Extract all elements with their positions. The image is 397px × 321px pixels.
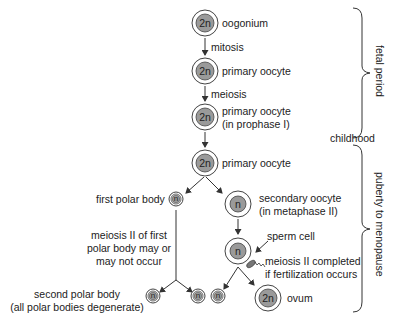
ploidy-label: 2n [195,111,215,123]
ploidy-label: 2n [195,157,215,169]
ovum-label: ovum [287,292,313,304]
completion-note-1: meiosis II completed [265,255,361,267]
meiosis-label: meiosis [211,88,247,100]
ploidy-label: n [147,291,159,301]
polar-meiosis-note-1: meiosis II of first [84,229,174,241]
completion-note-2: if fertilization occurs [265,268,357,280]
puberty-menopause-label: puberty to menopause [374,172,386,277]
sperm-icon [245,259,265,269]
primary-oocyte-prophase-label: primary oocyte [222,105,291,117]
ploidy-label: 2n [195,17,215,29]
polar-meiosis-note-2: polar body may or [84,242,174,254]
ploidy-label: n [170,194,182,204]
mitosis-label: mitosis [211,41,244,53]
fetal-period-brace [353,8,370,138]
primary-oocyte-prophase-sublabel: (in prophase I) [222,118,290,130]
primary-oocyte-label: primary oocyte [222,65,291,77]
oogonium-label: oogonium [222,17,268,29]
sperm-cell-label: sperm cell [267,230,315,242]
childhood-label: childhood [330,132,375,144]
puberty-brace [353,145,370,312]
ploidy-label: n [212,291,224,301]
primary-oocyte-label-2: primary oocyte [222,157,291,169]
polar-meiosis-note-3: may not occur [84,255,174,267]
ploidy-label: n [228,245,248,257]
secondary-oocyte-sublabel: (in metaphase II) [259,205,338,217]
secondary-oocyte-label: secondary oocyte [259,192,341,204]
ploidy-label: 2n [258,292,278,304]
ploidy-label: n [192,291,204,301]
first-polar-body-label: first polar body [96,193,165,205]
fetal-period-label: fetal period [374,45,386,97]
second-polar-body-label: second polar body [10,288,144,300]
polar-degenerate-note: (all polar bodies degenerate) [4,301,150,313]
ploidy-label: n [228,198,248,210]
ploidy-label: 2n [195,65,215,77]
